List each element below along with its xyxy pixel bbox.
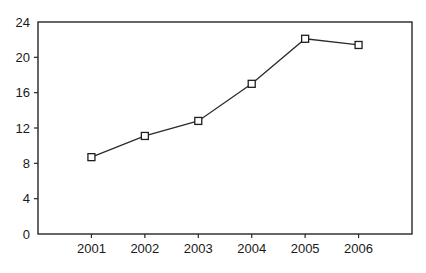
- y-tick-label: 24: [16, 15, 30, 30]
- y-tick-label: 4: [23, 191, 30, 206]
- x-tick-label: 2004: [237, 241, 266, 256]
- y-tick-label: 12: [16, 121, 30, 136]
- data-point-marker: [195, 117, 202, 124]
- data-point-marker: [88, 154, 95, 161]
- y-tick-label: 16: [16, 85, 30, 100]
- x-tick-label: 2003: [184, 241, 213, 256]
- x-tick-label: 2006: [344, 241, 373, 256]
- x-tick-label: 2005: [291, 241, 320, 256]
- y-tick-label: 20: [16, 50, 30, 65]
- data-point-marker: [302, 35, 309, 42]
- data-point-marker: [355, 41, 362, 48]
- line-chart: 04812162024 200120022003200420052006: [0, 0, 426, 273]
- data-point-marker: [248, 80, 255, 87]
- y-tick-label: 0: [23, 227, 30, 242]
- x-tick-label: 2002: [130, 241, 159, 256]
- x-tick-label: 2001: [77, 241, 106, 256]
- data-point-marker: [141, 132, 148, 139]
- chart-canvas: 04812162024 200120022003200420052006: [0, 0, 426, 273]
- y-tick-label: 8: [23, 156, 30, 171]
